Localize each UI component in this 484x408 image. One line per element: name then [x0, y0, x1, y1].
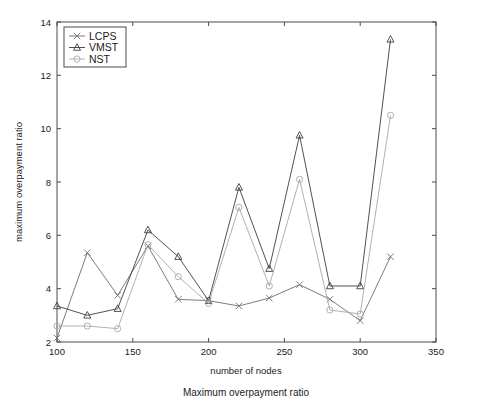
figure-caption: Maximum overpayment ratio: [183, 387, 310, 398]
x-tick-label: 200: [201, 346, 217, 357]
x-axis-label: number of nodes: [210, 365, 282, 376]
series-line: [57, 246, 391, 338]
data-point-marker: [84, 249, 90, 255]
y-tick-label: 2: [46, 337, 51, 348]
y-tick-label: 12: [40, 70, 51, 81]
x-tick-label: 100: [49, 346, 65, 357]
x-tick-label: 350: [428, 346, 444, 357]
series-lcps: [54, 243, 394, 341]
legend-label-nst: NST: [89, 53, 111, 65]
legend-label-lcps: LCPS: [89, 30, 116, 42]
y-tick-label: 4: [46, 283, 51, 294]
axes-frame: [57, 22, 436, 342]
data-point-marker: [114, 292, 120, 298]
chart-legend: LCPSVMSTNST: [64, 27, 126, 67]
x-tick-label: 300: [352, 346, 368, 357]
y-tick-label: 10: [40, 123, 51, 134]
figure-container: 100150200250300350 2468101214 LCPSVMSTNS…: [0, 0, 484, 408]
data-point-marker: [266, 295, 272, 301]
x-axis-ticks: 100150200250300350: [49, 22, 444, 357]
x-tick-label: 250: [276, 346, 292, 357]
data-point-marker: [296, 281, 302, 287]
y-axis-label: maximum overpayment ratio: [13, 122, 24, 242]
series-line: [57, 39, 391, 315]
series-vmst: [54, 36, 395, 319]
series-nst: [54, 112, 394, 332]
x-tick-label: 150: [125, 346, 141, 357]
y-tick-label: 8: [46, 177, 51, 188]
data-point-marker: [357, 317, 363, 323]
y-tick-label: 6: [46, 230, 51, 241]
data-point-marker: [145, 243, 151, 249]
y-tick-label: 14: [40, 17, 51, 28]
data-series-group: [54, 36, 395, 342]
legend-label-vmst: VMST: [89, 41, 119, 53]
data-point-marker: [387, 253, 393, 259]
chart-canvas: 100150200250300350 2468101214 LCPSVMSTNS…: [0, 0, 484, 408]
series-line: [57, 115, 391, 328]
